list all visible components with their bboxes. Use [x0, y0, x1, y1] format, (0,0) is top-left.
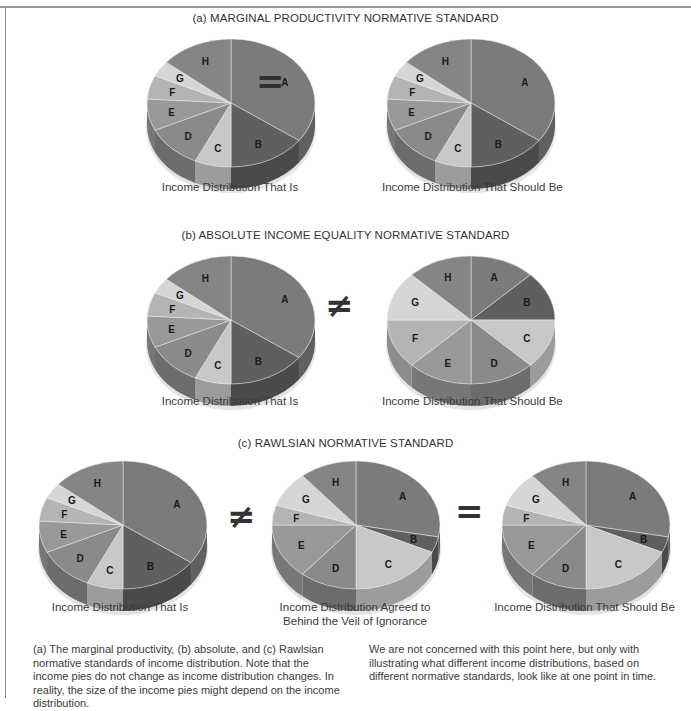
slice-label: H — [332, 477, 339, 488]
slice-label: F — [293, 513, 299, 524]
slice-label: G — [176, 73, 184, 84]
slice-label: G — [68, 495, 76, 506]
slice-label: B — [410, 534, 417, 545]
slice-label: G — [532, 494, 540, 505]
slice-label: F — [523, 513, 529, 524]
slice-label: F — [61, 509, 67, 520]
slice-label: C — [454, 143, 461, 154]
pie-caption: Income Distribution That Is — [145, 180, 315, 194]
slice-label: D — [185, 131, 192, 142]
slice-label: H — [562, 477, 569, 488]
slice-label: A — [173, 499, 180, 510]
slice-label: A — [521, 77, 528, 88]
slice-label: F — [409, 87, 415, 98]
pie-caption-line: Income Distribution Agreed to — [265, 600, 445, 614]
slice-label: D — [332, 563, 339, 574]
section-title-a: (a) MARGINAL PRODUCTIVITY NORMATIVE STAN… — [0, 12, 691, 24]
slice-label: G — [416, 73, 424, 84]
slice-label: C — [214, 143, 221, 154]
slice-label: E — [408, 107, 415, 118]
equals-operator: = — [455, 496, 484, 526]
pie-caption: Income Distribution That Should Be — [382, 394, 562, 408]
pie-chart-a-should-be: ABCDEFGH — [385, 35, 557, 195]
slice-label: B — [523, 297, 530, 308]
slice-label: H — [202, 273, 209, 284]
slice-label: F — [169, 304, 175, 315]
slice-label: E — [168, 324, 175, 335]
slice-label: E — [60, 529, 67, 540]
slice-label: E — [445, 358, 452, 369]
slice-label: B — [147, 561, 154, 572]
slice-label: D — [185, 348, 192, 359]
slice-label: E — [528, 540, 535, 551]
pie-chart-c-agreed: ABCDEFGH — [270, 457, 442, 617]
figure-caption-left: (a) The marginal productivity, (b) absol… — [33, 643, 343, 711]
pie-caption-agreed: Income Distribution Agreed to Behind the… — [265, 600, 445, 628]
pie-chart-a-is: ABCDEFGH — [145, 35, 317, 195]
slice-label: C — [214, 360, 221, 371]
pie-caption-line: Behind the Veil of Ignorance — [265, 614, 445, 628]
slice-label: C — [106, 565, 113, 576]
pie-chart-c-should-be: ABCDEFGH — [500, 457, 672, 617]
slice-label: B — [255, 356, 262, 367]
slice-label: E — [168, 107, 175, 118]
slice-label: H — [202, 56, 209, 67]
slice-label: C — [523, 333, 530, 344]
slice-label: D — [562, 563, 569, 574]
section-title-b: (b) ABSOLUTE INCOME EQUALITY NORMATIVE S… — [0, 229, 691, 241]
slice-label: H — [442, 56, 449, 67]
slice-label: C — [385, 559, 392, 570]
pie-caption: Income Distribution That Should Be — [492, 600, 677, 614]
slice-label: F — [169, 87, 175, 98]
figure-caption-right: We are not concerned with this point her… — [369, 643, 669, 684]
pie-chart-b-should-be: ABCDEFGH — [385, 252, 557, 412]
slice-label: A — [399, 491, 406, 502]
pie-chart-b-is: ABCDEFGH — [145, 252, 317, 412]
equals-operator: = — [256, 66, 285, 96]
slice-label: A — [629, 491, 636, 502]
slice-label: G — [302, 494, 310, 505]
pie-caption: Income Distribution That Is — [145, 394, 315, 408]
slice-label: E — [298, 540, 305, 551]
slice-label: B — [640, 534, 647, 545]
pie-chart-c-is: ABCDEFGH — [37, 457, 209, 617]
slice-label: B — [495, 139, 502, 150]
slice-label: B — [255, 139, 262, 150]
slice-label: D — [491, 358, 498, 369]
not-equal-operator: ≠ — [325, 290, 354, 320]
slice-label: F — [412, 333, 418, 344]
slice-label: A — [281, 294, 288, 305]
slice-label: G — [411, 297, 419, 308]
section-title-c: (c) RAWLSIAN NORMATIVE STANDARD — [0, 437, 691, 449]
slice-label: C — [615, 559, 622, 570]
slice-label: A — [491, 272, 498, 283]
not-equal-operator: ≠ — [227, 501, 256, 531]
pie-caption: Income Distribution That Should Be — [382, 180, 562, 194]
slice-label: D — [77, 553, 84, 564]
pie-caption: Income Distribution That Is — [35, 600, 205, 614]
slice-label: D — [425, 131, 432, 142]
slice-label: G — [176, 290, 184, 301]
slice-label: H — [444, 272, 451, 283]
slice-label: H — [94, 478, 101, 489]
